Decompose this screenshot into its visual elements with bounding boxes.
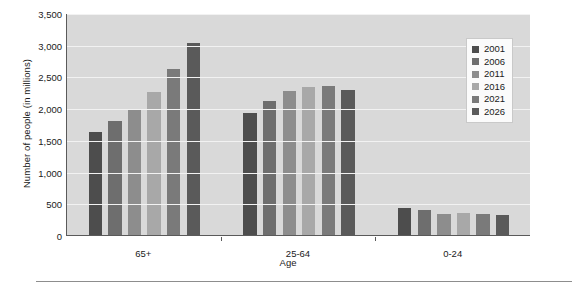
gridline	[67, 173, 530, 174]
x-axis-tick-label: 25-64	[286, 248, 310, 259]
bar	[89, 132, 102, 235]
legend-swatch-icon	[472, 83, 479, 90]
bar-group	[67, 14, 222, 235]
bar	[147, 92, 160, 235]
legend-item[interactable]: 2021	[472, 93, 505, 106]
legend-swatch-icon	[472, 96, 479, 103]
gridline	[67, 204, 530, 205]
gridline	[67, 46, 530, 47]
y-axis-tick-label: 1,000	[2, 167, 62, 178]
legend-item-label: 2011	[484, 68, 504, 81]
bar	[476, 214, 489, 235]
legend-swatch-icon	[472, 46, 479, 53]
legend-item[interactable]: 2011	[472, 68, 505, 81]
bar	[496, 215, 509, 235]
bar-group	[222, 14, 377, 235]
legend-swatch-icon	[472, 71, 479, 78]
x-axis-tick-label: 65+	[135, 248, 151, 259]
plot-area	[66, 14, 530, 236]
y-axis-tick-label: 500	[2, 199, 62, 210]
x-axis-tick	[221, 237, 222, 241]
bar-series-container	[67, 14, 530, 235]
x-axis-tick-label: 0-24	[443, 248, 462, 259]
y-axis-tick-label: 2,000	[2, 104, 62, 115]
y-axis-tick-label: 1,500	[2, 135, 62, 146]
bar	[167, 69, 180, 235]
bar	[283, 91, 296, 235]
y-axis-tick-labels: 05001,0001,5002,0002,5003,0003,500	[0, 0, 62, 250]
y-axis-tick-label: 2,500	[2, 72, 62, 83]
bar	[437, 214, 450, 235]
bar	[418, 210, 431, 235]
gridline	[67, 14, 530, 15]
gridline	[67, 141, 530, 142]
gridline	[67, 77, 530, 78]
gridline	[67, 109, 530, 110]
legend-item[interactable]: 2001	[472, 43, 505, 56]
legend-item-label: 2006	[484, 56, 505, 69]
legend-swatch-icon	[472, 58, 479, 65]
legend: 200120062011201620212026	[466, 38, 513, 123]
bar	[108, 121, 121, 235]
bar	[187, 43, 200, 235]
bar	[263, 101, 276, 235]
bar-chart: Number of people (in millions) 05001,000…	[0, 0, 576, 294]
legend-item-label: 2026	[484, 106, 505, 119]
bar	[457, 213, 470, 235]
legend-item-label: 2021	[484, 93, 505, 106]
y-axis-tick-label: 3,000	[2, 40, 62, 51]
y-axis-tick-label: 0	[2, 231, 62, 242]
footer-divider	[36, 281, 572, 282]
bar	[243, 113, 256, 235]
y-axis-tick-label: 3,500	[2, 9, 62, 20]
bar	[341, 90, 354, 235]
legend-item-label: 2016	[484, 81, 505, 94]
legend-item[interactable]: 2026	[472, 106, 505, 119]
x-axis-tick	[375, 237, 376, 241]
legend-item-label: 2001	[484, 43, 505, 56]
legend-item[interactable]: 2006	[472, 56, 505, 69]
bar	[398, 208, 411, 235]
legend-swatch-icon	[472, 108, 479, 115]
legend-item[interactable]: 2016	[472, 81, 505, 94]
